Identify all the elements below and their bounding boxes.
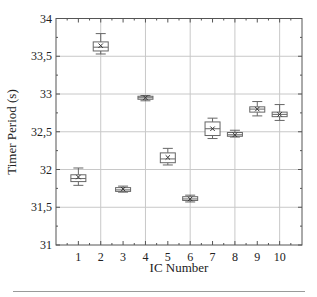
box-ic-10 [272,105,287,121]
box-ic-3 [116,186,131,192]
x-tick-label: 2 [98,250,104,264]
y-tick-label: 32,5 [31,125,52,139]
bottom-divider-rule [13,291,305,292]
box-plot-chart: 3131,53232,53333,534 12345678910 IC Numb… [0,0,317,297]
x-tick-label: 4 [142,250,148,264]
x-tick-label: 8 [232,250,238,264]
iqr-box [93,42,108,51]
x-tick-label: 3 [120,250,126,264]
y-tick-label: 31 [40,238,52,252]
x-tick-label: 10 [274,250,286,264]
x-tick-label: 1 [75,250,81,264]
y-tick-label: 32 [40,163,52,177]
x-tick-label: 9 [254,250,260,264]
y-tick-label: 34 [40,12,52,26]
y-tick-label: 33 [40,87,52,101]
box-series [71,34,287,202]
box-ic-2 [93,34,108,54]
box-ic-7 [205,118,220,138]
grid-lines [56,19,302,246]
box-ic-6 [183,195,198,202]
x-tick-label: 7 [210,250,216,264]
box-ic-5 [160,148,175,165]
box-ic-1 [71,168,86,185]
box-ic-9 [250,102,265,116]
y-axis-title: Timer Period (s) [4,89,19,174]
y-tick-label: 33,5 [31,49,52,63]
y-tick-label: 31,5 [31,200,52,214]
x-axis-title: IC Number [150,260,210,275]
y-axis-tick-labels: 3131,53232,53333,534 [31,12,52,253]
box-ic-4 [138,96,153,101]
